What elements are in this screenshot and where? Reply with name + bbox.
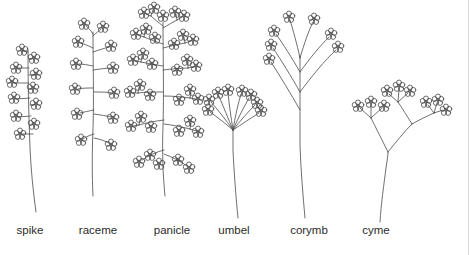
raceme-pedicels [78,26,112,143]
inflorescence-diagram-figure: spike raceme panicle umbel corymb cyme [0,0,469,255]
label-corymb: corymb [290,224,328,236]
label-raceme: raceme [79,224,117,236]
label-umbel: umbel [218,224,249,236]
corymb-branches [271,20,336,110]
inflorescence-cyme [352,80,452,222]
corymb-flowers [263,11,344,64]
label-spike: spike [17,224,44,236]
inflorescence-umbel [202,84,267,218]
inflorescence-spike [6,44,42,212]
inflorescence-corymb [263,11,344,218]
inflorescence-drawing [0,0,469,255]
label-cyme: cyme [362,224,389,236]
inflorescence-panicle [124,2,204,196]
inflorescence-raceme [69,18,120,196]
label-panicle: panicle [154,224,190,236]
umbel-flowers [202,84,267,116]
spike-flowers [6,44,42,139]
cyme-flowers [352,80,452,115]
raceme-flowers [69,18,120,150]
